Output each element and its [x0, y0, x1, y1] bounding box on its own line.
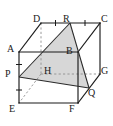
geometry-figure: A B C D E F G H P Q R: [0, 0, 113, 126]
vertex-label-h: H: [44, 66, 51, 76]
vertex-label-r: R: [63, 14, 70, 24]
edge-a-d: [19, 23, 41, 52]
vertex-label-d: D: [33, 14, 40, 24]
vertex-label-q: Q: [88, 88, 95, 98]
vertex-label-p: P: [5, 69, 11, 79]
vertex-label-b: B: [66, 46, 73, 56]
vertex-label-c: C: [101, 14, 108, 24]
vertex-label-f: F: [69, 104, 75, 114]
vertex-label-g: G: [101, 66, 108, 76]
cube-diagram-svg: [0, 0, 113, 126]
vertex-label-e: E: [9, 104, 15, 114]
edge-b-c: [78, 23, 100, 52]
vertex-label-a: A: [7, 44, 14, 54]
